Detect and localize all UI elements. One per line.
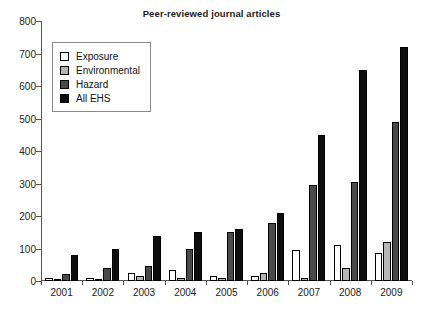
bar-allehs-2005[interactable] [235,229,243,281]
x-axis-tick [330,281,331,285]
bar-exposure-2007[interactable] [292,250,300,281]
bar-environmental-2009[interactable] [383,242,391,281]
bar-environmental-2002[interactable] [95,279,103,281]
legend-item-label: Hazard [76,79,108,90]
chart-legend: ExposureEnvironmentalHazardAll EHS [52,42,151,112]
y-axis-tick-label: 100 [2,243,36,254]
bar-environmental-2005[interactable] [218,278,226,281]
x-axis-tick [288,281,289,285]
y-axis-tick-label: 0 [2,276,36,287]
legend-swatch-environmental-icon [60,66,69,75]
x-axis-tick-label-2005: 2005 [215,287,237,298]
bar-group-2005 [206,21,247,281]
x-axis-tick [247,281,248,285]
bar-exposure-2003[interactable] [128,273,136,281]
bar-hazard-2001[interactable] [62,274,70,281]
bar-allehs-2001[interactable] [71,255,79,281]
bar-group-2009 [371,21,412,281]
bar-allehs-2008[interactable] [359,70,367,281]
chart-container: Peer-reviewed journal articles 010020030… [0,0,423,318]
legend-item-environmental[interactable]: Environmental [60,63,140,77]
bar-group-2004 [165,21,206,281]
y-axis-labels: 0100200300400500600700800 [0,21,36,281]
y-axis-tick-label: 700 [2,48,36,59]
bar-exposure-2009[interactable] [375,253,383,281]
bar-group-2006 [247,21,288,281]
x-axis-tick-label-2008: 2008 [339,287,361,298]
bar-exposure-2008[interactable] [334,245,342,281]
x-axis-tick [206,281,207,285]
x-axis-tick-label-2004: 2004 [174,287,196,298]
bar-allehs-2007[interactable] [318,135,326,281]
legend-item-label: Environmental [76,65,140,76]
x-axis-tick [123,281,124,285]
bar-allehs-2006[interactable] [277,213,285,281]
bar-environmental-2003[interactable] [136,276,144,281]
legend-item-hazard[interactable]: Hazard [60,77,140,91]
y-axis-tick-label: 600 [2,81,36,92]
x-axis-tick-label-2007: 2007 [298,287,320,298]
x-axis-tick [82,281,83,285]
bar-hazard-2005[interactable] [227,232,235,281]
y-axis-tick-label: 400 [2,146,36,157]
legend-swatch-hazard-icon [60,80,69,89]
bar-environmental-2007[interactable] [301,278,309,281]
bar-hazard-2006[interactable] [268,223,276,282]
bar-group-2007 [288,21,329,281]
bar-environmental-2004[interactable] [177,278,185,281]
bar-group-2008 [330,21,371,281]
bar-exposure-2004[interactable] [169,270,177,281]
bar-allehs-2003[interactable] [153,236,161,282]
legend-item-label: Exposure [76,51,118,62]
bar-environmental-2001[interactable] [54,279,62,281]
bar-exposure-2006[interactable] [251,276,259,281]
x-axis-tick-label-2003: 2003 [133,287,155,298]
bar-hazard-2002[interactable] [103,268,111,281]
bar-hazard-2003[interactable] [145,266,153,281]
bar-hazard-2007[interactable] [309,185,317,281]
bar-environmental-2006[interactable] [260,273,268,281]
legend-item-allehs[interactable]: All EHS [60,91,140,105]
bar-exposure-2002[interactable] [86,278,94,281]
bar-allehs-2009[interactable] [400,47,408,281]
x-axis-tick [412,281,413,285]
legend-item-exposure[interactable]: Exposure [60,49,140,63]
y-axis-tick-label: 300 [2,178,36,189]
x-axis-tick-label-2006: 2006 [257,287,279,298]
chart-title: Peer-reviewed journal articles [0,8,423,19]
x-axis-tick [371,281,372,285]
x-axis-tick-label-2001: 2001 [50,287,72,298]
bar-hazard-2008[interactable] [351,182,359,281]
x-axis-tick [41,281,42,285]
legend-swatch-exposure-icon [60,52,69,61]
y-axis-tick-label: 500 [2,113,36,124]
bar-allehs-2004[interactable] [194,232,202,281]
x-axis-tick-label-2009: 2009 [380,287,402,298]
y-axis-tick-label: 200 [2,211,36,222]
bar-exposure-2005[interactable] [210,276,218,281]
bar-environmental-2008[interactable] [342,268,350,281]
bar-allehs-2002[interactable] [112,249,120,282]
y-axis-tick-label: 800 [2,16,36,27]
x-axis-tick [165,281,166,285]
bar-hazard-2004[interactable] [186,249,194,282]
legend-item-label: All EHS [76,93,110,104]
legend-swatch-allehs-icon [60,94,69,103]
bar-hazard-2009[interactable] [392,122,400,281]
x-axis-tick-label-2002: 2002 [92,287,114,298]
bar-exposure-2001[interactable] [45,278,53,281]
